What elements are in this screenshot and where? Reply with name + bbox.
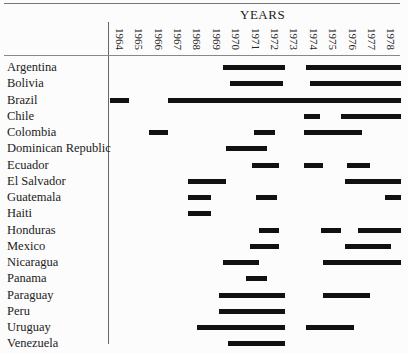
period-bar bbox=[223, 65, 285, 70]
row-label: Panama bbox=[7, 271, 47, 286]
period-bar bbox=[246, 276, 267, 281]
year-tick: 1972 bbox=[268, 25, 282, 53]
period-bar bbox=[345, 179, 401, 184]
row-label: El Salvador bbox=[7, 174, 66, 189]
row-label: Bolivia bbox=[7, 76, 44, 91]
period-bar bbox=[306, 65, 401, 70]
row-label: Argentina bbox=[7, 60, 57, 75]
year-tick: 1966 bbox=[152, 25, 166, 53]
period-bar bbox=[197, 325, 284, 330]
row-label: Brazil bbox=[7, 93, 38, 108]
period-bar bbox=[168, 98, 401, 103]
top-rule bbox=[4, 3, 400, 4]
period-bar bbox=[223, 260, 260, 265]
period-bar bbox=[323, 293, 370, 298]
axis-divider bbox=[108, 22, 109, 344]
period-bar bbox=[304, 163, 323, 168]
chart: YEARS 1964196519661967196819691970197119… bbox=[0, 0, 408, 353]
period-bar bbox=[256, 195, 277, 200]
period-bar bbox=[254, 130, 275, 135]
period-bar bbox=[304, 130, 362, 135]
row-label: Nicaragua bbox=[7, 255, 58, 270]
year-tick: 1964 bbox=[113, 25, 127, 53]
row-label: Guatemala bbox=[7, 190, 61, 205]
period-bar bbox=[252, 163, 279, 168]
row-label: Haiti bbox=[7, 206, 32, 221]
period-bar bbox=[228, 341, 284, 346]
year-tick: 1976 bbox=[346, 25, 360, 53]
year-tick: 1978 bbox=[384, 25, 398, 53]
row-label: Honduras bbox=[7, 223, 56, 238]
row-label: Uruguay bbox=[7, 320, 51, 335]
period-bar bbox=[347, 163, 370, 168]
year-tick: 1965 bbox=[132, 25, 146, 53]
row-label: Peru bbox=[7, 304, 30, 319]
period-bar bbox=[321, 228, 340, 233]
year-tick: 1974 bbox=[307, 25, 321, 53]
year-tick: 1968 bbox=[190, 25, 204, 53]
period-bar bbox=[188, 195, 211, 200]
period-bar bbox=[259, 228, 278, 233]
year-tick: 1973 bbox=[287, 25, 301, 53]
row-label: Colombia bbox=[7, 125, 56, 140]
period-bar bbox=[219, 293, 285, 298]
header-rule bbox=[4, 55, 400, 56]
period-bar bbox=[341, 114, 401, 119]
period-bar bbox=[345, 244, 392, 249]
period-bar bbox=[226, 146, 267, 151]
row-label: Ecuador bbox=[7, 158, 49, 173]
year-tick: 1977 bbox=[365, 25, 379, 53]
period-bar bbox=[188, 211, 211, 216]
year-tick: 1975 bbox=[326, 25, 340, 53]
year-tick: 1967 bbox=[171, 25, 185, 53]
period-bar bbox=[230, 81, 282, 86]
period-bar bbox=[304, 114, 320, 119]
row-label: Mexico bbox=[7, 239, 45, 254]
period-bar bbox=[188, 179, 227, 184]
year-tick: 1969 bbox=[210, 25, 224, 53]
period-bar bbox=[110, 98, 129, 103]
year-tick: 1970 bbox=[229, 25, 243, 53]
row-label: Venezuela bbox=[7, 336, 58, 351]
period-bar bbox=[149, 130, 168, 135]
chart-title: YEARS bbox=[240, 7, 285, 23]
year-tick: 1971 bbox=[249, 25, 263, 53]
period-bar bbox=[323, 260, 401, 265]
period-bar bbox=[306, 325, 355, 330]
period-bar bbox=[385, 195, 401, 200]
period-bar bbox=[250, 244, 279, 249]
row-label: Dominican Republic bbox=[7, 141, 111, 156]
row-label: Chile bbox=[7, 109, 34, 124]
row-label: Paraguay bbox=[7, 288, 54, 303]
period-bar bbox=[219, 309, 285, 314]
period-bar bbox=[358, 228, 401, 233]
period-bar bbox=[310, 81, 401, 86]
